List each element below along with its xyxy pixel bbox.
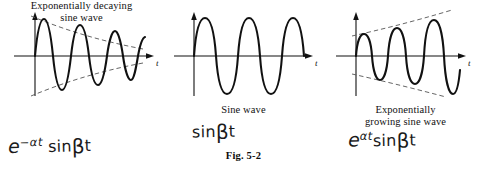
formula-base: e <box>8 135 20 157</box>
formula-exponent: −αt <box>19 135 43 150</box>
x-axis-arrowhead <box>305 53 313 59</box>
caption-sine-wave: Sine wave <box>162 104 325 116</box>
formula-function: sin <box>192 122 216 141</box>
caption-exponentially-decaying: Exponentially decaying sine wave <box>0 0 163 23</box>
caption-line-2: sine wave <box>0 12 163 24</box>
decaying-sine-curve <box>35 19 145 90</box>
y-axis-arrowhead <box>353 12 359 20</box>
figure-container: t Exponentially decaying sine wave e−αt … <box>0 0 487 175</box>
growing-sine-svg: t <box>324 4 487 100</box>
sine-wave-svg: t <box>162 4 325 100</box>
x-axis-label: t <box>156 58 159 68</box>
formula-function: sin <box>373 131 397 150</box>
x-axis-label: t <box>468 58 471 68</box>
formula-freq: β <box>396 129 409 153</box>
growing-sine-curve <box>356 20 460 94</box>
formula-freq: β <box>216 120 229 144</box>
lower-envelope <box>352 74 446 97</box>
formula-variable: t <box>84 136 91 155</box>
caption-line-1: Exponentially <box>324 104 487 116</box>
caption-line-1: Exponentially decaying <box>0 0 163 12</box>
panel-sine-wave: t Sine wave sinβt Fig. 5-2 <box>162 0 325 175</box>
formula-base: e <box>348 128 360 150</box>
x-axis-arrowhead <box>146 53 154 59</box>
caption-exponentially-growing: Exponentially growing sine wave <box>324 104 487 127</box>
panel-exponentially-decaying: t Exponentially decaying sine wave e−αt … <box>0 0 163 175</box>
formula-function: sin <box>48 136 72 156</box>
formula-exponent: αt <box>360 129 373 143</box>
panel-exponentially-growing: t Exponentially growing sine wave eαtsin… <box>324 0 487 175</box>
handwritten-formula-sine: sinβt <box>192 122 235 142</box>
caption-line-1: Sine wave <box>162 104 325 116</box>
formula-variable: t <box>228 122 235 141</box>
x-axis-label: t <box>315 58 318 68</box>
caption-line-2: growing sine wave <box>324 116 487 128</box>
handwritten-formula-growing: eαtsinβt <box>348 127 416 150</box>
y-axis-arrowhead <box>191 12 197 20</box>
x-axis-arrowhead <box>458 53 466 59</box>
handwritten-formula-decaying: e−αt sinβt <box>8 133 92 157</box>
plot-sine-wave: t <box>162 4 325 100</box>
formula-freq: β <box>72 134 85 158</box>
plot-exponentially-growing: t <box>324 4 487 100</box>
formula-variable: t <box>409 130 416 149</box>
figure-label: Fig. 5-2 <box>162 150 325 161</box>
